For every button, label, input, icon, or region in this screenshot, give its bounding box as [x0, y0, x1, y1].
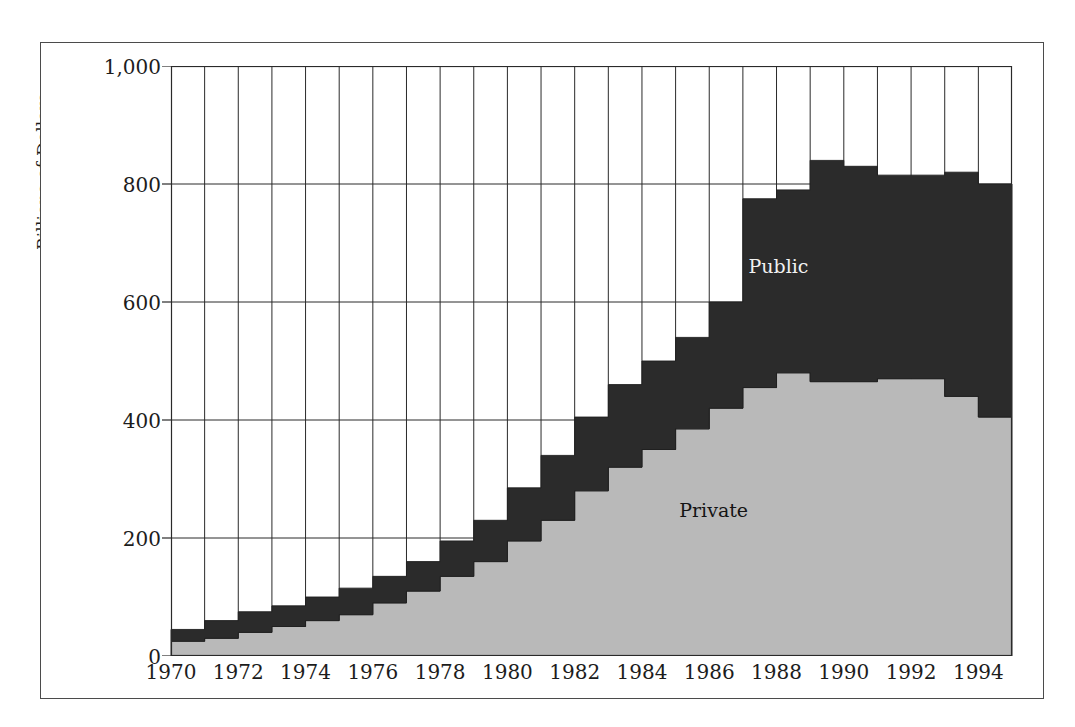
x-tick-label-1980: 1980 [482, 660, 533, 684]
plot-area: Public Private [171, 66, 1012, 656]
figure-root: Billions of Dollars 02004006008001,000 P… [0, 0, 1075, 727]
x-axis-tick-labels: 1970197219741976197819801982198419861988… [171, 660, 1012, 692]
y-axis-tick-labels: 02004006008001,000 [78, 66, 161, 656]
x-tick-label-1988: 1988 [751, 660, 802, 684]
x-tick-label-1986: 1986 [684, 660, 735, 684]
y-tick-label: 800 [123, 173, 161, 197]
series-label-public: Public [749, 255, 809, 277]
y-tick-label: 400 [123, 409, 161, 433]
x-tick-label-1994: 1994 [953, 660, 1004, 684]
x-tick-label-1992: 1992 [886, 660, 937, 684]
x-tick-label-1972: 1972 [213, 660, 264, 684]
y-tick-label: 600 [123, 291, 161, 315]
x-tick-label-1982: 1982 [549, 660, 600, 684]
series-label-private: Private [679, 499, 748, 521]
x-tick-label-1970: 1970 [146, 660, 197, 684]
x-tick-label-1974: 1974 [280, 660, 331, 684]
chart-svg [159, 66, 1014, 656]
y-tick-label: 200 [123, 527, 161, 551]
y-tick-label: 1,000 [104, 55, 161, 79]
x-tick-label-1984: 1984 [617, 660, 668, 684]
x-tick-label-1976: 1976 [347, 660, 398, 684]
x-tick-label-1978: 1978 [415, 660, 466, 684]
stacked-areas [171, 160, 1012, 656]
x-tick-label-1990: 1990 [818, 660, 869, 684]
